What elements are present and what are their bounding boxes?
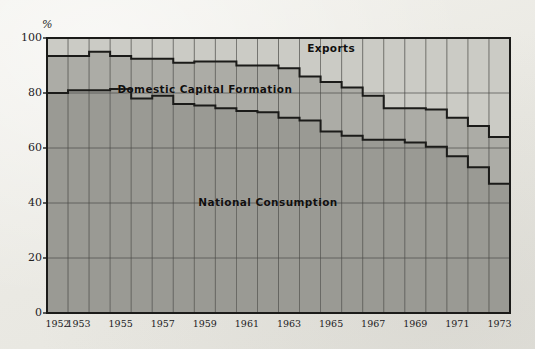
x-tick-label: 1955 [109,318,133,329]
stacked-area-chart [0,0,535,349]
x-tick-label: 1957 [151,318,175,329]
series-annotation: National Consumption [198,196,337,208]
series-annotation: Domestic Capital Formation [117,83,292,95]
x-tick-label: 1959 [193,318,217,329]
x-tick-label: 1973 [487,318,511,329]
x-tick-label: 1969 [403,318,427,329]
x-tick-label: 1963 [277,318,301,329]
x-tick-label: 1971 [445,318,469,329]
x-tick-label: 1953 [66,318,90,329]
y-tick-text: 60 [8,141,42,154]
x-tick-label: 1961 [235,318,259,329]
x-tick-label: 1967 [361,318,385,329]
y-tick-text: 100 [8,31,42,44]
series-annotation: Exports [307,42,355,54]
figure-page: % 020406080100 1952195319551957195919611… [0,0,535,349]
x-tick-label: 1965 [319,318,343,329]
y-tick-text: 0 [8,306,42,319]
y-tick-text: 40 [8,196,42,209]
y-tick-text: 80 [8,86,42,99]
y-tick-text: 20 [8,251,42,264]
